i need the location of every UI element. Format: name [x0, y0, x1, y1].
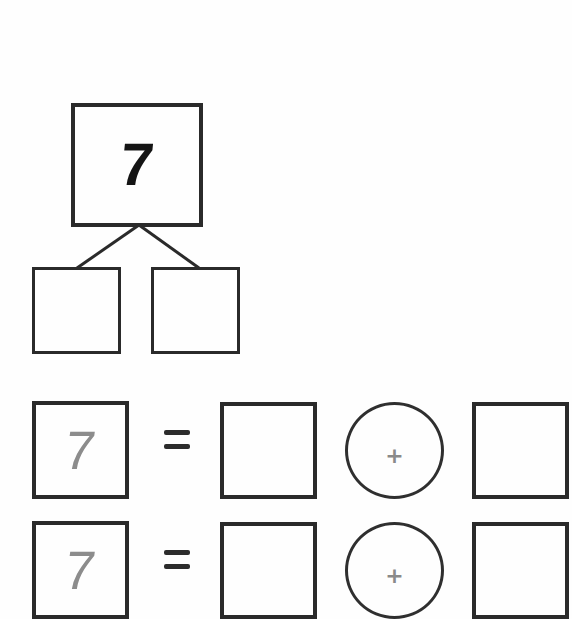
operator-circle: +: [345, 402, 444, 499]
bond-part-left-box[interactable]: [32, 267, 121, 354]
addend-a-box[interactable]: [220, 402, 317, 499]
bond-whole-box: 7: [71, 103, 203, 227]
operator-circle: +: [345, 522, 444, 619]
equation-total-value: 7: [62, 423, 100, 477]
addend-b-box[interactable]: [472, 402, 569, 499]
bond-part-right-box[interactable]: [151, 267, 240, 354]
addend-b-box[interactable]: [472, 522, 569, 619]
plus-icon: +: [385, 445, 403, 467]
addend-a-box[interactable]: [220, 522, 317, 619]
bond-whole-value: 7: [117, 135, 157, 195]
equation-total-value: 7: [62, 543, 100, 597]
equation-total-box: 7: [32, 401, 129, 499]
plus-icon: +: [385, 565, 403, 587]
equation-total-box: 7: [32, 521, 129, 619]
